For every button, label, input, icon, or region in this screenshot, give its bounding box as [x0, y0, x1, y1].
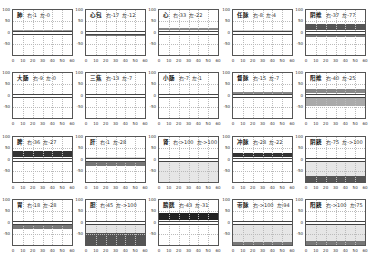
chart-panel: 100500-50胆右-45左->1000102030405060 — [73, 198, 148, 260]
meridian-name: 肝 — [90, 139, 96, 145]
right-value: 右-13 — [106, 75, 119, 81]
left-value: 左-7 — [269, 75, 279, 81]
y-tick-label: 100 — [73, 8, 83, 12]
chart-panel: 100500-50冲脉右-28左-220102030405060 — [220, 135, 295, 197]
x-tick-label: 60 — [362, 59, 367, 63]
x-tick-label: 30 — [113, 186, 118, 190]
right-value: 右-17 — [106, 12, 119, 18]
x-tick-label: 40 — [196, 186, 201, 190]
x-tick-label: 30 — [40, 249, 45, 253]
plot-area: 肝右-1左-28 — [85, 136, 146, 183]
left-value: 左-94 — [277, 202, 290, 208]
x-tick-label: 50 — [280, 122, 285, 126]
meridian-name: 肾 — [163, 139, 169, 145]
zero-reference-box — [306, 31, 365, 35]
y-tick-label: 50 — [146, 146, 156, 150]
x-tick-label: 10 — [313, 186, 318, 190]
y-tick-label: 50 — [220, 19, 230, 23]
y-tick-label: 100 — [146, 198, 156, 202]
chart-panel: 100500-50阴维右-37左-770102030405060 — [293, 8, 368, 70]
meridian-name: 胆 — [90, 202, 96, 208]
y-tick-label: 100 — [73, 71, 83, 75]
y-tick-label: 100 — [220, 8, 230, 12]
zero-reference-box — [159, 94, 218, 98]
right-value: 右->100 — [253, 202, 274, 208]
y-tick-label: 100 — [220, 71, 230, 75]
left-value: 左-77 — [342, 12, 355, 18]
x-tick-label: 10 — [313, 249, 318, 253]
x-tick-label: 40 — [196, 122, 201, 126]
x-tick-label: 40 — [270, 122, 275, 126]
panel-title: 任脉右-8左-4 — [237, 11, 279, 19]
right-value: 右-8 — [253, 12, 263, 18]
y-tick-label: -50 — [146, 232, 156, 236]
zero-reference-box — [233, 31, 292, 35]
panel-title: 胆右-45左->100 — [90, 201, 140, 209]
y-tick-label: -50 — [220, 232, 230, 236]
x-tick-label: 20 — [30, 59, 35, 63]
y-tick-label: 100 — [293, 198, 303, 202]
plot-area: 小肠右-7左-1 — [158, 72, 219, 119]
y-tick-label: 50 — [293, 209, 303, 213]
y-tick-label: 100 — [73, 135, 83, 139]
zero-reference-box — [306, 221, 365, 225]
y-tick-label: 100 — [73, 198, 83, 202]
y-tick-label: -50 — [0, 169, 10, 173]
zero-reference-box — [13, 221, 72, 225]
y-tick-label: 50 — [0, 209, 10, 213]
x-tick-label: 10 — [313, 59, 318, 63]
zero-reference-box — [306, 94, 365, 98]
right-value: 右-43 — [179, 202, 192, 208]
plot-area: 脾右-36左-27 — [12, 136, 73, 183]
right-value: 右-75 — [326, 139, 339, 145]
left-value: 左-25 — [342, 75, 355, 81]
x-tick-label: 20 — [103, 249, 108, 253]
right-value: 右-33 — [173, 12, 186, 18]
x-tick-label: 50 — [353, 186, 358, 190]
x-tick-label: 0 — [158, 122, 161, 126]
y-tick-label: 0 — [73, 158, 83, 162]
y-tick-label: -50 — [146, 169, 156, 173]
y-tick-label: -50 — [73, 42, 83, 46]
x-tick-label: 0 — [305, 186, 308, 190]
x-tick-label: 10 — [93, 59, 98, 63]
y-tick-label: 0 — [220, 221, 230, 225]
right-value: 右-1 — [27, 12, 37, 18]
zero-reference-box — [306, 158, 365, 162]
right-value: 右-15 — [253, 75, 266, 81]
chart-panel: 100500-50阳维右-40左-250102030405060 — [293, 71, 368, 133]
x-tick-label: 30 — [333, 186, 338, 190]
meridian-name: 任脉 — [237, 12, 249, 18]
chart-panel: 100500-50脾右-36左-270102030405060 — [0, 135, 75, 197]
plot-area: 胃右-18左-28 — [12, 199, 73, 246]
meridian-name: 胃 — [17, 202, 23, 208]
x-tick-label: 50 — [353, 249, 358, 253]
y-tick-label: 0 — [0, 158, 10, 162]
x-tick-label: 0 — [12, 249, 15, 253]
y-tick-label: 0 — [73, 221, 83, 225]
x-tick-label: 30 — [186, 186, 191, 190]
panel-title: 肾右->100左->100 — [163, 138, 219, 146]
x-tick-label: 0 — [305, 249, 308, 253]
x-tick-label: 50 — [60, 59, 65, 63]
left-value: 左-0 — [46, 75, 56, 81]
x-tick-label: 20 — [30, 186, 35, 190]
x-tick-label: 30 — [333, 59, 338, 63]
left-value: 左-75 — [350, 202, 363, 208]
y-tick-label: 0 — [220, 158, 230, 162]
x-tick-label: 0 — [305, 122, 308, 126]
y-tick-label: 50 — [73, 82, 83, 86]
x-tick-label: 30 — [260, 249, 265, 253]
x-tick-label: 40 — [50, 249, 55, 253]
y-tick-label: 0 — [293, 158, 303, 162]
left-value: 左-1 — [192, 75, 202, 81]
y-tick-label: -50 — [146, 105, 156, 109]
y-tick-label: 0 — [0, 31, 10, 35]
y-tick-label: 50 — [220, 82, 230, 86]
x-tick-label: 0 — [85, 122, 88, 126]
x-tick-label: 50 — [133, 59, 138, 63]
y-tick-label: -50 — [73, 105, 83, 109]
plot-area: 膀胱右-43左-31 — [158, 199, 219, 246]
y-tick-label: 50 — [73, 19, 83, 23]
plot-area: 阴维右-37左-77 — [305, 9, 366, 56]
